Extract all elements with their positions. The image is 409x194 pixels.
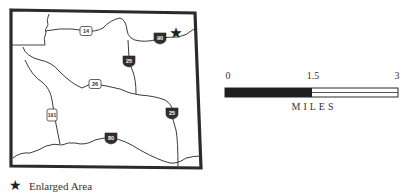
scale-tick-3: 3 [395,71,400,81]
svg-text:26: 26 [92,81,98,87]
star-icon: ★ [9,179,22,193]
svg-text:25: 25 [169,110,175,116]
scale-tick-0: 0 [226,71,231,81]
scale-tick-1-5: 1.5 [307,71,320,81]
svg-text:80: 80 [108,135,114,141]
road-us-191 [25,60,60,144]
legend: ★ Enlarged Area [9,179,92,193]
shield-us-191: 191 [47,109,57,121]
shield-i-90: 90 [154,33,166,44]
scale-bar-filled-segment [225,88,312,97]
road-i-25-south [173,112,178,168]
park-boundary [12,14,49,45]
shield-i-80: 80 [105,133,117,144]
state-map: 14 26 191 90 25 25 80 ★ [0,0,409,194]
shield-i-25-south: 25 [166,108,178,119]
shield-label: 14 [83,28,90,34]
shield-i-25-north: 25 [123,56,135,67]
enlarged-area-marker-icon: ★ [169,24,182,42]
svg-text:25: 25 [126,58,132,64]
svg-text:191: 191 [48,112,57,118]
scale-bar [225,88,398,97]
shield-us-14: 14 [80,27,92,36]
legend-label: Enlarged Area [29,180,92,192]
scale-unit-label: MILES [292,101,337,112]
svg-text:90: 90 [157,35,163,41]
shield-us-26: 26 [89,80,101,89]
